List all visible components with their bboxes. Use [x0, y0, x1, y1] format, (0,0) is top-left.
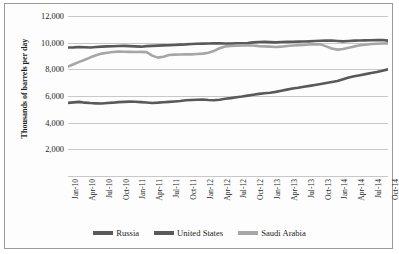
x-axis-tick: Jul-12 — [239, 179, 248, 198]
x-axis-tick: Jul-14 — [374, 179, 383, 198]
legend-label: Saudi Arabia — [261, 228, 306, 238]
legend-item-united-states[interactable]: United States — [154, 228, 223, 238]
legend-swatch-icon — [238, 231, 258, 235]
x-axis-tick: Jul-13 — [307, 179, 316, 198]
y-axis-tick-labels: 12,00010,0008,0006,0004,0002,000 — [19, 16, 64, 176]
x-axis-tick: Apr-11 — [155, 179, 164, 201]
x-axis-tick: Oct-14 — [391, 179, 399, 200]
y-axis-tick: 12,000 — [41, 12, 64, 21]
legend-swatch-icon — [154, 231, 174, 235]
series-lines — [68, 16, 388, 176]
x-axis-tick: Jul-11 — [172, 179, 181, 198]
y-axis-tick: 4,000 — [45, 118, 64, 127]
legend-item-russia[interactable]: Russia — [93, 228, 139, 238]
chart-legend: RussiaUnited StatesSaudi Arabia — [5, 228, 394, 238]
legend-label: United States — [177, 228, 223, 238]
x-axis-tick: Oct-13 — [324, 179, 333, 200]
gridline — [68, 176, 388, 177]
x-axis-tick: Apr-14 — [357, 179, 366, 201]
legend-item-saudi-arabia[interactable]: Saudi Arabia — [238, 228, 306, 238]
x-axis-tick: Jan-14 — [340, 179, 349, 199]
y-axis-tick: 8,000 — [45, 65, 64, 74]
x-axis-tick: Jan-11 — [138, 179, 147, 199]
x-axis-tick: Oct-10 — [122, 179, 131, 200]
plot-area — [68, 16, 388, 176]
y-axis-tick: 2,000 — [45, 145, 64, 154]
series-line-united-states — [68, 69, 388, 103]
y-axis-tick: 6,000 — [45, 92, 64, 101]
x-axis-tick: Apr-12 — [223, 179, 232, 201]
chart-container: Thousands of barrels per day 12,00010,00… — [4, 3, 393, 249]
x-axis-tick: Jan-12 — [206, 179, 215, 199]
legend-label: Russia — [116, 228, 139, 238]
x-axis-tick: Oct-11 — [189, 179, 198, 200]
legend-swatch-icon — [93, 231, 113, 235]
x-axis-tick: Apr-13 — [290, 179, 299, 201]
x-axis-tick: Oct-12 — [256, 179, 265, 200]
x-axis-tick: Jan-10 — [71, 179, 80, 199]
x-axis-tick: Apr-10 — [88, 179, 97, 201]
x-axis-tick: Jul-10 — [105, 179, 114, 198]
x-axis-tick: Jan-13 — [273, 179, 282, 199]
y-axis-tick: 10,000 — [41, 38, 64, 47]
x-axis-tick-labels: Jan-10Apr-10Jul-10Oct-10Jan-11Apr-11Jul-… — [68, 179, 388, 221]
